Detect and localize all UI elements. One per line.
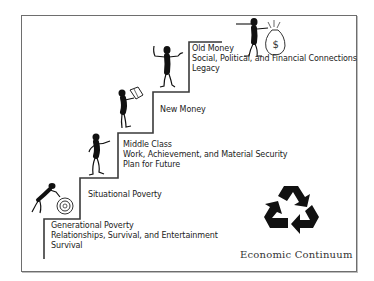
step-values: Work, Achievement, and Material Security [123, 150, 287, 160]
person-celebrating-icon [150, 40, 186, 90]
step-generational-poverty: Generational Poverty Relationships, Surv… [51, 221, 218, 251]
step-focus: Legacy [192, 64, 357, 74]
step-title: Old Money [192, 44, 357, 54]
person-reading-icon [116, 86, 148, 132]
step-middle-class: Middle Class Work, Achievement, and Mate… [123, 140, 287, 170]
step-values: Relationships, Survival, and Entertainme… [51, 231, 218, 241]
step-situational-poverty: Situational Poverty [88, 190, 162, 200]
step-values: Social, Political, and Financial Connect… [192, 54, 357, 64]
step-old-money: Old Money Social, Political, and Financi… [192, 44, 357, 74]
step-title: New Money [160, 105, 206, 115]
diagram-title: Economic Continuum [240, 249, 353, 260]
step-title: Situational Poverty [88, 190, 162, 200]
person-walking-icon [84, 132, 114, 178]
step-title: Middle Class [123, 140, 287, 150]
step-focus: Survival [51, 241, 218, 251]
recycle-icon [262, 183, 320, 235]
person-pushing-wheel-icon [28, 180, 78, 218]
step-new-money: New Money [160, 105, 206, 115]
step-focus: Plan for Future [123, 160, 287, 170]
step-title: Generational Poverty [51, 221, 218, 231]
